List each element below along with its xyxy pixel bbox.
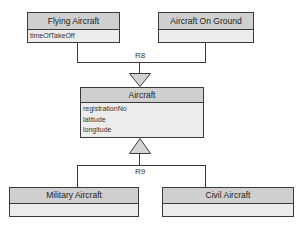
r9-left-drop (77, 165, 78, 187)
relationship-label-r9: R9 (125, 167, 155, 176)
r9-right-drop (205, 165, 206, 187)
class-aircraft: Aircraft registrationNo latitude longitu… (80, 87, 204, 138)
class-name: Flying Aircraft (28, 13, 119, 30)
r8-left-drop (77, 43, 78, 63)
attribute: longitude (83, 125, 203, 136)
class-name: Military Aircraft (10, 188, 138, 204)
class-military-aircraft: Military Aircraft (9, 187, 139, 217)
class-name: Aircraft (81, 88, 203, 103)
relationship-label-r8: R8 (125, 51, 155, 60)
class-attributes: registrationNo latitude longitude (81, 103, 203, 136)
r9-horizontal (77, 165, 206, 166)
class-aircraft-on-ground: Aircraft On Ground (158, 12, 254, 43)
attribute: latitude (83, 115, 203, 126)
class-name: Civil Aircraft (163, 188, 293, 204)
generalization-arrow-icon (129, 138, 151, 154)
class-civil-aircraft: Civil Aircraft (162, 187, 294, 217)
r8-right-drop (205, 43, 206, 63)
class-name: Aircraft On Ground (159, 13, 253, 30)
class-attributes: timeOfTakeOff (28, 30, 119, 42)
attribute: registrationNo (83, 104, 203, 115)
r8-horizontal (77, 62, 206, 63)
attribute: timeOfTakeOff (30, 31, 119, 42)
generalization-arrow-icon (129, 73, 151, 87)
class-flying-aircraft: Flying Aircraft timeOfTakeOff (27, 12, 120, 43)
